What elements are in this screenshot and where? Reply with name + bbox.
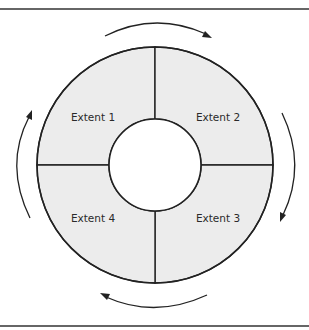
arrowhead-top-icon	[202, 31, 212, 38]
label-extent-2: Extent 2	[196, 111, 240, 123]
arrowhead-bottom-icon	[100, 293, 110, 300]
arrowhead-left-icon	[26, 110, 32, 120]
label-extent-3: Extent 3	[196, 212, 240, 224]
ring	[37, 47, 273, 283]
extent-cycle-diagram: Extent 1 Extent 2 Extent 3 Extent 4	[0, 0, 309, 330]
label-extent-1: Extent 1	[71, 111, 115, 123]
arrow-right	[282, 113, 295, 215]
arrow-bottom	[106, 295, 207, 308]
arrow-top	[105, 23, 206, 36]
inner-circle	[109, 119, 201, 211]
arrowhead-right-icon	[280, 212, 286, 222]
label-extent-4: Extent 4	[71, 212, 116, 224]
arrow-left	[17, 117, 30, 218]
